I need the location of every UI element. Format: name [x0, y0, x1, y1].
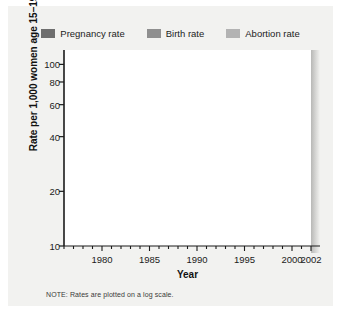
- axis-lines: [52, 46, 320, 262]
- legend-item-birth: Birth rate: [147, 28, 205, 39]
- legend-label-abortion: Abortion rate: [245, 28, 299, 39]
- y-tick-label: 80: [49, 76, 60, 87]
- y-tick-label: 40: [49, 131, 60, 142]
- legend-item-abortion: Abortion rate: [226, 28, 299, 39]
- chart-note: NOTE: Rates are plotted on a log scale.: [46, 291, 326, 298]
- y-tick-label: 100: [44, 59, 60, 70]
- x-axis-label: Year: [64, 269, 311, 280]
- legend-swatch-pregnancy: [41, 29, 55, 38]
- x-tick-label: 1990: [186, 254, 207, 265]
- y-tick-label: 60: [49, 99, 60, 110]
- x-tick-label: 2000: [281, 254, 302, 265]
- y-tick-label: 20: [49, 186, 60, 197]
- x-tick-label: 2002: [300, 254, 321, 265]
- legend-swatch-birth: [147, 29, 161, 38]
- x-axis-ticks: 198019851990199520002002: [64, 254, 320, 268]
- chart-legend: Pregnancy rate Birth rate Abortion rate: [8, 28, 333, 39]
- x-tick-label: 1985: [139, 254, 160, 265]
- x-tick-label: 1980: [91, 254, 112, 265]
- legend-label-birth: Birth rate: [166, 28, 205, 39]
- x-tick-label: 1995: [234, 254, 255, 265]
- legend-label-pregnancy: Pregnancy rate: [60, 28, 124, 39]
- y-tick-label: 10: [49, 241, 60, 252]
- chart-card: Pregnancy rate Birth rate Abortion rate …: [8, 6, 333, 306]
- legend-swatch-abortion: [226, 29, 240, 38]
- legend-item-pregnancy: Pregnancy rate: [41, 28, 124, 39]
- y-axis-label: Rate per 1,000 women age 15–19: [28, 0, 39, 167]
